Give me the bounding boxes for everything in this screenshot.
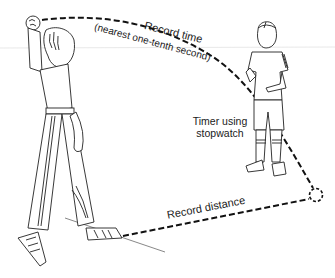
timer-label-line2: stopwatch [196,127,243,139]
timer-label: Timer using stopwatch [190,115,250,139]
timer-label-line1: Timer using [193,115,247,127]
landing-point [310,189,323,202]
thrower-figure [18,16,122,266]
shuttle-throw-diagram: Record time (nearest one-tenth second) T… [0,0,335,278]
timer-figure [246,22,288,176]
